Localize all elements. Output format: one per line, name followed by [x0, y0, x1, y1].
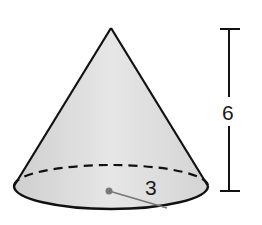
cone-diagram: 3 6: [0, 0, 262, 225]
height-label: 6: [222, 101, 234, 124]
cone-body: [14, 28, 208, 209]
radius-label: 3: [145, 176, 157, 199]
